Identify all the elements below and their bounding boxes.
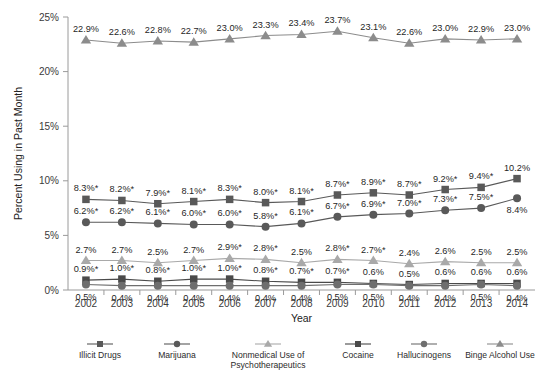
data-point-label: 0.6% xyxy=(507,267,528,277)
x-axis-title: Year xyxy=(291,312,313,324)
y-axis: 0%5%10%15%20%25% xyxy=(39,12,68,296)
data-point-label: 2.5% xyxy=(471,247,492,257)
data-point-label: 0.5% xyxy=(399,269,420,279)
legend-item-illicit-drugs[interactable]: Illicit Drugs xyxy=(79,341,121,360)
data-point-label: 8.7%* xyxy=(325,179,350,189)
data-point-label: 8.1%* xyxy=(181,186,206,196)
marker-triangle xyxy=(332,254,342,262)
marker-circle xyxy=(262,282,270,290)
data-point-label: 8.3%* xyxy=(74,183,99,193)
marker-circle xyxy=(298,282,306,290)
marker-triangle xyxy=(512,34,522,43)
data-point-label: 23.4% xyxy=(288,18,314,28)
data-point-label: 6.2%* xyxy=(74,206,99,216)
data-point-label: 23.0% xyxy=(432,23,458,33)
legend-label: Hallucinogens xyxy=(397,350,451,360)
legend-item-cocaine[interactable]: Cocaine xyxy=(342,341,374,360)
legend-marker-circle xyxy=(174,341,180,347)
data-point-label: 8.1%* xyxy=(289,186,314,196)
marker-square xyxy=(154,200,162,208)
y-tick-label: 20% xyxy=(39,66,59,77)
legend-item-binge-alcohol-use[interactable]: Binge Alcohol Use xyxy=(465,340,535,360)
data-point-label: 0.4% xyxy=(147,293,168,303)
data-point-label: 9.4%* xyxy=(469,171,494,181)
data-point-label: 7.5%* xyxy=(469,192,494,202)
marker-circle xyxy=(226,282,234,290)
data-point-label: 0.4% xyxy=(435,293,456,303)
data-point-label: 0.4% xyxy=(507,293,528,303)
data-point-label: 1.0%* xyxy=(181,263,206,273)
marker-triangle xyxy=(476,35,486,44)
marker-square xyxy=(334,191,342,199)
y-tick-label: 10% xyxy=(39,175,59,186)
legend-label: Cocaine xyxy=(342,350,374,360)
data-point-label: 1.0%* xyxy=(217,263,242,273)
marker-triangle xyxy=(440,34,450,43)
marker-circle xyxy=(405,210,413,218)
data-point-label: 2.7%* xyxy=(361,245,386,255)
marker-triangle xyxy=(260,31,270,39)
data-point-label: 2.4% xyxy=(399,248,420,258)
data-point-label: 2.5% xyxy=(507,247,528,257)
data-point-label: 6.1%* xyxy=(146,207,171,217)
data-point-label: 6.2%* xyxy=(110,206,135,216)
marker-circle xyxy=(298,219,306,227)
marker-circle xyxy=(405,282,413,290)
marker-circle xyxy=(369,211,377,219)
data-point-label: 23.0% xyxy=(504,23,530,33)
marker-triangle xyxy=(476,258,486,267)
marker-circle xyxy=(118,282,126,290)
marker-square xyxy=(441,186,449,194)
data-point-label: 1.0%* xyxy=(110,263,135,273)
data-point-label: 2.7% xyxy=(111,245,132,255)
data-point-label: 8.2%* xyxy=(110,184,135,194)
data-point-label: 23.0% xyxy=(217,23,243,33)
marker-triangle xyxy=(224,253,234,262)
marker-square xyxy=(118,197,126,205)
data-point-label: 0.9%* xyxy=(74,264,99,274)
marker-square xyxy=(298,198,306,206)
data-point-label: 7.3%* xyxy=(433,194,458,204)
series-hallucinogens xyxy=(82,281,521,290)
marker-triangle xyxy=(260,254,270,262)
data-point-label: 23.1% xyxy=(360,22,386,32)
data-point-label: 0.5% xyxy=(471,292,492,302)
marker-circle xyxy=(513,282,521,290)
marker-square xyxy=(513,175,521,183)
legend-label: Psychotherapeutics xyxy=(231,360,306,370)
data-point-label: 6.7%* xyxy=(325,201,350,211)
data-point-label: 0.4% xyxy=(183,293,204,303)
legend-marker-circle xyxy=(421,341,427,347)
chart-container: 0%5%10%15%20%25% 20022003200420052006200… xyxy=(0,0,543,376)
marker-circle xyxy=(154,282,162,290)
line-chart-svg: 0%5%10%15%20%25% 20022003200420052006200… xyxy=(0,0,543,376)
marker-circle xyxy=(190,282,198,290)
marker-triangle xyxy=(368,256,378,265)
legend-item-nonmedical-use-of-psychotherapeutics[interactable]: Nonmedical Use ofPsychotherapeutics xyxy=(231,340,306,370)
marker-circle xyxy=(333,213,341,221)
data-point-label: 0.6% xyxy=(363,267,384,277)
data-point-label: 6.1%* xyxy=(289,207,314,217)
data-point-label: 7.0%* xyxy=(397,198,422,208)
marker-circle xyxy=(118,218,126,226)
data-point-label: 2.5% xyxy=(147,247,168,257)
marker-square xyxy=(190,198,198,206)
marker-triangle xyxy=(81,35,91,44)
data-point-label: 2.9%* xyxy=(217,242,242,252)
data-point-label: 8.4% xyxy=(507,205,528,215)
legend-item-marijuana[interactable]: Marijuana xyxy=(158,341,196,360)
marker-circle xyxy=(262,223,270,231)
chart-legend: Illicit DrugsMarijuanaNonmedical Use ofP… xyxy=(79,340,535,370)
data-point-label: 8.3%* xyxy=(217,183,242,193)
y-axis-title: Percent Using in Past Month xyxy=(12,87,24,220)
data-point-label: 6.0%* xyxy=(217,208,242,218)
data-point-label: 10.2% xyxy=(504,163,530,173)
legend-marker-square xyxy=(97,341,103,347)
data-point-label: 0.7%* xyxy=(325,266,350,276)
legend-item-hallucinogens[interactable]: Hallucinogens xyxy=(397,341,451,360)
data-point-label: 0.5% xyxy=(327,292,348,302)
marker-square xyxy=(370,189,378,197)
data-point-label: 0.4% xyxy=(399,293,420,303)
marker-circle xyxy=(154,219,162,227)
legend-label: Nonmedical Use of xyxy=(232,350,305,360)
